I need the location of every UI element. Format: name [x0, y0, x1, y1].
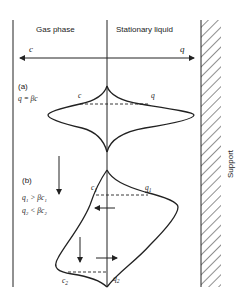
gas-phase-label: Gas phase [36, 25, 75, 34]
chromatography-diagram: Gas phase Stationary liquid c q (a) q = … [0, 0, 246, 301]
panel-a-c-label: c [78, 91, 82, 100]
panel-b: (b) q₁ > βc₁ q₂ < βc₂ c1 q1 c2 q2 [22, 170, 178, 287]
panel-a-condition: q = βc [18, 94, 38, 103]
panel-b-condition-1: q₁ > βc₁ [22, 193, 47, 202]
c1-label: c1 [91, 183, 97, 193]
q1-label: q1 [145, 183, 152, 193]
panel-b-liquid-peak [107, 170, 178, 287]
panel-a-label: (a) [18, 82, 28, 91]
q-axis-label: q [180, 44, 185, 54]
panel-b-label: (b) [22, 176, 32, 185]
stationary-liquid-label: Stationary liquid [116, 25, 173, 34]
panel-b-condition-2: q₂ < βc₂ [22, 206, 47, 215]
c-axis-label: c [29, 44, 33, 54]
panel-a-q-label: q [151, 91, 155, 100]
c2-label: c2 [62, 276, 68, 286]
panel-a: (a) q = βc c q [18, 82, 194, 152]
support-wall [201, 20, 221, 287]
support-label: Support [226, 149, 235, 178]
q2-label: q2 [113, 274, 120, 284]
panel-b-gas-peak [56, 170, 107, 287]
